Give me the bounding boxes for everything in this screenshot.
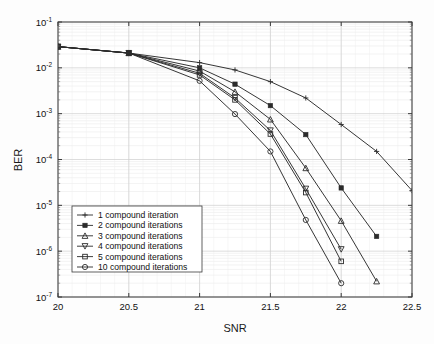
x-tick-label: 20 [53,301,64,312]
filled-square-marker [268,103,272,107]
x-tick-label: 22.5 [403,301,422,312]
filled-square-marker [339,186,343,190]
legend-label: 2 compound iterations [98,220,183,230]
x-tick-label: 22 [336,301,347,312]
x-axis-label: SNR [223,322,246,334]
x-tick-label: 21.5 [261,301,280,312]
ber-vs-snr-chart: 2020.52121.52222.5 10-110-210-310-410-51… [0,0,434,344]
figure-container: 2020.52121.52222.5 10-110-210-310-410-51… [0,0,434,344]
filled-square-marker [374,234,378,238]
legend-label: 4 compound iterations [98,241,183,251]
x-tick-label: 20.5 [120,301,139,312]
filled-square-marker [233,82,237,86]
legend-label: 1 compound iteration [98,210,178,220]
legend-label: 5 compound iterations [98,252,183,262]
chart-legend[interactable]: 1 compound iteration2 compound iteration… [72,206,202,272]
legend-label: 10 compound iterations [98,262,187,272]
y-axis-label: BER [12,149,24,172]
filled-square-marker [304,132,308,136]
filled-square-marker [83,223,87,227]
legend-label: 3 compound iterations [98,231,183,241]
x-tick-label: 21 [194,301,205,312]
